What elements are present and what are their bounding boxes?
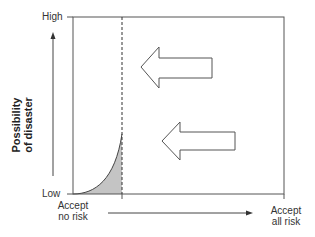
diagram-canvas <box>0 0 315 237</box>
accept-all-risk-line2: all risk <box>264 216 308 227</box>
low-label: Low <box>42 188 60 199</box>
shaded-area <box>73 134 122 194</box>
x-axis-arrow <box>108 211 253 216</box>
plot-frame <box>73 17 284 194</box>
accept-no-risk-line1: Accept <box>52 200 94 211</box>
left-arrow-upper-icon <box>141 47 212 88</box>
left-arrow-lower-icon <box>162 122 235 160</box>
accept-all-risk-line1: Accept <box>264 205 308 216</box>
high-label: High <box>42 11 63 22</box>
y-axis-arrow <box>51 32 56 176</box>
accept-all-risk-label: Accept all risk <box>264 205 308 227</box>
y-axis-title-line1: Possibility <box>10 97 22 153</box>
accept-no-risk-label: Accept no risk <box>52 200 94 222</box>
y-axis-title-line2: of disaster <box>22 97 34 153</box>
accept-no-risk-line2: no risk <box>52 211 94 222</box>
y-axis-title: Possibility of disaster <box>2 70 42 180</box>
